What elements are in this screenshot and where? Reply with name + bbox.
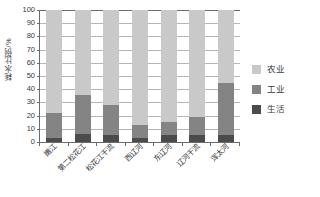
legend-item-label: 工业 bbox=[267, 85, 285, 94]
x-axis-category-label: 嫩江 bbox=[0, 143, 59, 197]
legend-swatch-icon bbox=[252, 85, 261, 94]
bar-series-container bbox=[40, 10, 240, 142]
y-axis-tick-label: 80 bbox=[27, 33, 35, 41]
bar-segment[interactable] bbox=[161, 135, 177, 142]
bar-stack[interactable] bbox=[46, 10, 62, 142]
legend-item[interactable]: 农业 bbox=[252, 64, 318, 75]
bar-segment[interactable] bbox=[103, 10, 119, 105]
stacked-bar-chart: 耗水比例/% 0102030405060708090100 嫩江第二松花江松花江… bbox=[0, 0, 320, 197]
y-axis-tick-label: 10 bbox=[27, 125, 35, 133]
bar-stack[interactable] bbox=[189, 10, 205, 142]
bar-segment[interactable] bbox=[189, 10, 205, 117]
bar-group[interactable] bbox=[40, 10, 69, 142]
bar-segment[interactable] bbox=[218, 135, 234, 142]
y-axis-tick-label: 100 bbox=[22, 6, 35, 14]
chart-legend: 农业工业生活 bbox=[252, 64, 318, 124]
bar-segment[interactable] bbox=[218, 10, 234, 83]
legend-swatch-icon bbox=[252, 65, 261, 74]
bar-stack[interactable] bbox=[75, 10, 91, 142]
bar-segment[interactable] bbox=[75, 10, 91, 94]
x-axis-category-labels: 嫩江第二松花江松花江干流西辽河东辽河辽河干流浑太河 bbox=[39, 143, 239, 197]
legend-item-label: 农业 bbox=[267, 65, 285, 74]
y-axis-tick-label: 60 bbox=[27, 59, 35, 67]
bar-segment[interactable] bbox=[189, 135, 205, 142]
y-axis-tick-label: 90 bbox=[27, 19, 35, 27]
bar-segment[interactable] bbox=[161, 10, 177, 122]
bar-segment[interactable] bbox=[103, 135, 119, 142]
y-axis-tick-label: 30 bbox=[27, 99, 35, 107]
y-axis-tick-label: 0 bbox=[31, 138, 35, 146]
y-axis-tick-labels: 0102030405060708090100 bbox=[16, 10, 37, 142]
y-axis-title-text: 耗水比例/% bbox=[5, 38, 13, 81]
bar-segment[interactable] bbox=[189, 117, 205, 135]
bar-segment[interactable] bbox=[75, 134, 91, 142]
bar-group[interactable] bbox=[211, 10, 240, 142]
plot-area bbox=[39, 10, 240, 143]
bar-segment[interactable] bbox=[132, 10, 148, 125]
legend-item-label: 生活 bbox=[267, 105, 285, 114]
y-axis-tick-label: 50 bbox=[27, 72, 35, 80]
legend-swatch-icon bbox=[252, 105, 261, 114]
bar-group[interactable] bbox=[69, 10, 98, 142]
legend-item[interactable]: 生活 bbox=[252, 104, 318, 115]
y-axis-title: 耗水比例/% bbox=[2, 14, 16, 106]
y-axis-tick-label: 20 bbox=[27, 112, 35, 120]
bar-stack[interactable] bbox=[103, 10, 119, 142]
bar-group[interactable] bbox=[97, 10, 126, 142]
y-axis-tick-label: 70 bbox=[27, 46, 35, 54]
bar-stack[interactable] bbox=[132, 10, 148, 142]
legend-item[interactable]: 工业 bbox=[252, 84, 318, 95]
bar-segment[interactable] bbox=[103, 105, 119, 135]
bar-segment[interactable] bbox=[161, 122, 177, 135]
x-axis-tick-mark bbox=[239, 142, 240, 146]
bar-segment[interactable] bbox=[46, 10, 62, 113]
bar-group[interactable] bbox=[183, 10, 212, 142]
bar-segment[interactable] bbox=[46, 113, 62, 138]
bar-group[interactable] bbox=[154, 10, 183, 142]
bar-segment[interactable] bbox=[218, 83, 234, 136]
bar-group[interactable] bbox=[126, 10, 155, 142]
bar-stack[interactable] bbox=[218, 10, 234, 142]
y-axis-tick-label: 40 bbox=[27, 85, 35, 93]
bar-segment[interactable] bbox=[132, 125, 148, 138]
bar-stack[interactable] bbox=[161, 10, 177, 142]
bar-segment[interactable] bbox=[75, 95, 91, 135]
